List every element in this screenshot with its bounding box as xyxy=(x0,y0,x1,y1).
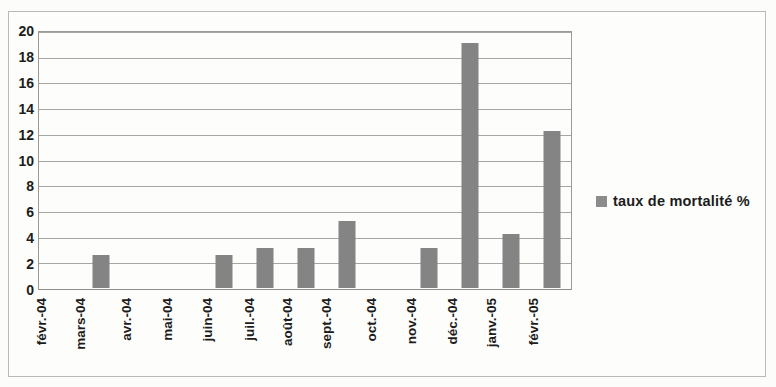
y-axis-tick-labels: 02468101214161820 xyxy=(0,31,34,290)
x-axis-tick-label: juil.-04 xyxy=(243,298,257,341)
x-axis-tick-slot: juil.-04 xyxy=(244,292,285,384)
x-axis-tick-label: févr.-04 xyxy=(36,298,50,345)
bar[interactable] xyxy=(93,255,110,288)
bar-slot xyxy=(490,33,531,288)
y-axis-tick-label: 0 xyxy=(0,283,34,297)
x-axis-tick-label: déc.-04 xyxy=(445,298,459,345)
x-axis-tick-slot: sept.-04 xyxy=(325,292,366,384)
y-axis-tick-label: 12 xyxy=(0,128,34,142)
bar-chart-figure: 02468101214161820 févr.-04mars-04avr.-04… xyxy=(0,0,776,387)
x-axis-tick-slot: mai-04 xyxy=(162,292,203,384)
bar-slot xyxy=(408,33,449,288)
bar-slot xyxy=(531,33,572,288)
bar-slot xyxy=(286,33,327,288)
x-axis-tick-label: sept.-04 xyxy=(320,298,334,349)
chart-legend: taux de mortalité % xyxy=(596,193,750,209)
bar[interactable] xyxy=(461,43,478,288)
y-axis-tick-label: 8 xyxy=(0,179,34,193)
x-axis-tick-label: avr.-04 xyxy=(120,298,134,341)
y-axis-tick-label: 14 xyxy=(0,102,34,116)
x-axis-tick-slot: avr.-04 xyxy=(121,292,162,384)
x-axis-tick-label: juin-04 xyxy=(201,298,215,342)
x-axis-tick-label: nov.-04 xyxy=(405,298,419,344)
bar-slot xyxy=(449,33,490,288)
bar[interactable] xyxy=(543,131,560,288)
x-axis-tick-slot: oct.-04 xyxy=(366,292,407,384)
bar-slot xyxy=(163,33,204,288)
y-axis-tick-label: 4 xyxy=(0,231,34,245)
plot-area xyxy=(38,31,572,290)
x-axis-tick-label: mai-04 xyxy=(161,298,175,341)
x-axis-tick-label: oct.-04 xyxy=(365,298,379,342)
plot-area-wrapper xyxy=(38,31,572,290)
y-axis-tick-label: 18 xyxy=(0,50,34,64)
x-axis-tick-slot: mars-04 xyxy=(80,292,121,384)
bar-slot xyxy=(367,33,408,288)
y-axis-tick-label: 16 xyxy=(0,76,34,90)
gridline xyxy=(39,289,571,290)
x-axis-tick-slot: janv.-05 xyxy=(489,292,530,384)
y-axis-tick-label: 10 xyxy=(0,154,34,168)
x-axis-tick-label: mars-04 xyxy=(74,298,88,350)
bar-slot xyxy=(122,33,163,288)
y-axis-tick-label: 20 xyxy=(0,24,34,38)
bar[interactable] xyxy=(257,248,274,288)
bars-layer xyxy=(40,33,570,288)
bar-slot xyxy=(40,33,81,288)
legend-label: taux de mortalité % xyxy=(613,193,750,209)
x-axis-tick-slot: nov.-04 xyxy=(407,292,448,384)
legend-swatch-icon xyxy=(596,196,607,207)
x-axis-tick-labels: févr.-04mars-04avr.-04mai-04juin-04juil.… xyxy=(38,292,572,384)
bar[interactable] xyxy=(338,221,355,288)
y-axis-tick-label: 2 xyxy=(0,257,34,271)
x-axis-tick-label: févr.-05 xyxy=(527,298,541,345)
bar[interactable] xyxy=(502,234,519,288)
bar[interactable] xyxy=(297,248,314,288)
x-axis-tick-slot: juin-04 xyxy=(203,292,244,384)
bar[interactable] xyxy=(420,248,437,288)
bar-slot xyxy=(81,33,122,288)
y-axis-tick-label: 6 xyxy=(0,205,34,219)
bar-slot xyxy=(204,33,245,288)
bar-slot xyxy=(245,33,286,288)
bar[interactable] xyxy=(216,255,233,288)
bar-slot xyxy=(326,33,367,288)
x-axis-tick-slot: déc.-04 xyxy=(448,292,489,384)
x-axis-tick-slot: févr.-05 xyxy=(530,292,571,384)
x-axis-tick-label: août-04 xyxy=(281,298,295,346)
x-axis-tick-label: janv.-05 xyxy=(485,298,499,347)
